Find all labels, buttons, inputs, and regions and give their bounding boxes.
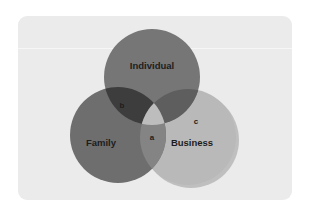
region-label-c: c [194,117,199,126]
region-label-a: a [150,133,155,142]
individual-label: Individual [130,60,174,71]
business-label: Business [171,137,213,148]
venn-diagram: Individual Family Business a b c [0,0,310,215]
family-label: Family [86,137,117,148]
venn-diagram-stage: Individual Family Business a b c [0,0,310,215]
region-label-b: b [120,101,125,110]
